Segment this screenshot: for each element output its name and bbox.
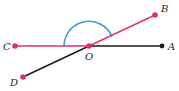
point-b — [152, 12, 158, 18]
label-o: O — [85, 51, 93, 62]
segment-od — [23, 46, 89, 77]
label-b: B — [160, 3, 168, 14]
segment-ob — [89, 15, 155, 46]
angle-arc-boc — [64, 21, 112, 46]
label-c: C — [3, 41, 11, 52]
label-a: A — [167, 41, 175, 52]
label-d: D — [9, 77, 18, 88]
point-c — [12, 43, 18, 49]
point-o — [86, 43, 92, 49]
angle-diagram: C O A B D — [0, 0, 179, 91]
point-d — [20, 74, 26, 80]
point-a — [160, 44, 165, 49]
